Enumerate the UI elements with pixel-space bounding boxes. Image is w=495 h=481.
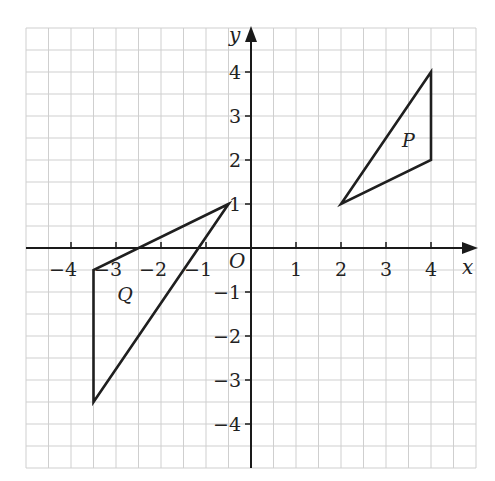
y-tick-label: 3 xyxy=(229,105,241,127)
y-tick-label: 4 xyxy=(229,61,241,83)
y-tick-label: 1 xyxy=(229,193,241,215)
coordinate-grid-figure: x y O −4−3−2−112344321−1−2−3−4 PQ xyxy=(0,0,495,481)
y-axis-label: y xyxy=(228,23,241,47)
x-tick-label: 3 xyxy=(380,258,392,280)
x-tick-label: 1 xyxy=(290,258,302,280)
triangle-p-label: P xyxy=(401,129,416,151)
shapes: PQ xyxy=(94,72,432,402)
x-tick-label: −4 xyxy=(49,258,77,280)
y-tick-label: −1 xyxy=(213,281,241,303)
triangle-q-label: Q xyxy=(117,283,133,305)
y-tick-label: −3 xyxy=(213,369,241,391)
x-tick-label: −2 xyxy=(139,258,167,280)
x-tick-label: 4 xyxy=(425,258,437,280)
y-tick-label: −2 xyxy=(213,325,241,347)
origin-label: O xyxy=(229,249,245,273)
x-axis-label: x xyxy=(462,255,473,279)
y-tick-label: 2 xyxy=(229,149,241,171)
x-tick-label: 2 xyxy=(335,258,347,280)
y-tick-label: −4 xyxy=(213,413,241,435)
